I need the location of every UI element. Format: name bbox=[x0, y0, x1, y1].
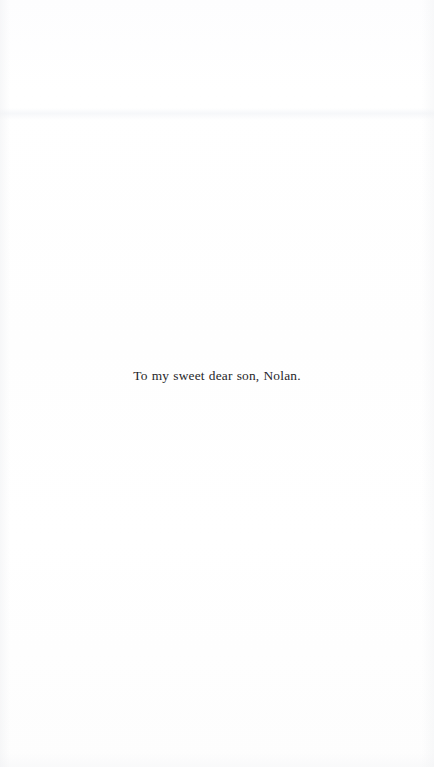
dedication-block: To my sweet dear son, Nolan. bbox=[0, 366, 434, 385]
scanned-book-page: To my sweet dear son, Nolan. bbox=[0, 0, 434, 767]
dedication-text: To my sweet dear son, Nolan. bbox=[133, 367, 300, 385]
scan-artifact-band bbox=[0, 108, 434, 120]
